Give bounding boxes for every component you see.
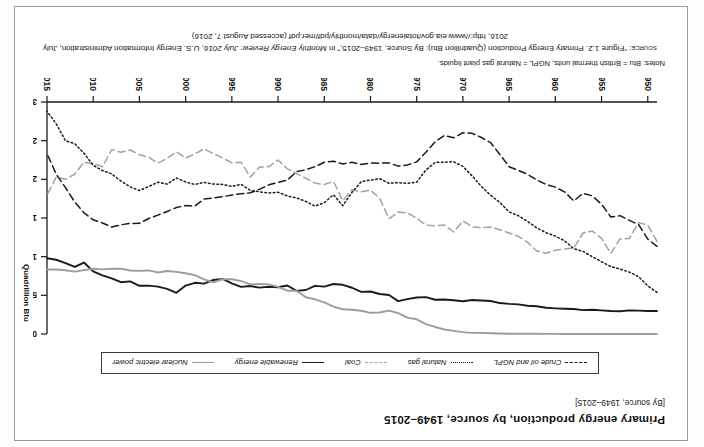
source-line1-a: “Figure 1.2. Primary Energy Production (… <box>327 44 627 53</box>
y-axis-title: Quadrillion Btu <box>22 264 31 322</box>
x-tick-label: 1975 <box>412 78 422 91</box>
line-chart: 0510152025301950195519601965197019751980… <box>33 78 665 340</box>
legend-label: Renewable energy <box>235 359 298 368</box>
x-tick-label-group: 2000 <box>181 78 191 91</box>
series-line-coal <box>47 149 657 253</box>
legend-swatch-icon <box>365 363 387 364</box>
legend-label: Coal <box>345 359 361 368</box>
x-tick-label-group: 1980 <box>365 78 375 91</box>
y-tick-label: 5 <box>33 290 37 300</box>
legend-item: Renewable energy <box>235 359 324 368</box>
legend-item: Nuclear electric power <box>113 359 214 368</box>
legend-label: Natural gas <box>408 359 447 368</box>
chart-plot-area: 0510152025301950195519601965197019751980… <box>33 78 665 340</box>
x-tick-label-group: 2010 <box>88 78 98 91</box>
x-tick-label: 2015 <box>42 78 52 91</box>
source-line1-b: , U.S. Energy <box>156 44 204 53</box>
x-tick-label-group: 1985 <box>319 78 329 91</box>
legend-swatch-icon <box>451 363 473 364</box>
x-tick-label-group: 1965 <box>504 78 514 91</box>
x-tick-label: 2005 <box>134 78 144 91</box>
y-tick-label: 20 <box>33 174 37 184</box>
x-tick-label-group: 1990 <box>273 78 283 91</box>
x-tick-label-group: 2005 <box>134 78 144 91</box>
y-tick-label: 30 <box>33 97 37 107</box>
figure-source: source: “Figure 1.2. Primary Energy Prod… <box>35 31 665 54</box>
x-tick-label: 1965 <box>504 78 514 91</box>
x-tick-label-group: 1955 <box>597 78 607 91</box>
x-tick-label: 2010 <box>88 78 98 91</box>
chart-legend: Crude oil and NGPLNatural gasCoalRenewab… <box>101 352 599 374</box>
x-tick-label-group: 1950 <box>643 78 653 91</box>
figure-card: Primary energy production, by source, 19… <box>14 6 688 441</box>
y-tick-label: 25 <box>33 136 37 146</box>
legend-item: Coal <box>345 359 387 368</box>
y-tick-label: 10 <box>33 252 37 262</box>
legend-swatch-icon <box>302 363 324 364</box>
page-subtitle: [By source, 1949–2015] <box>575 398 665 408</box>
figure-notes: Notes: Btu = British thermal units, NGPL… <box>438 59 665 68</box>
legend-label: Crude oil and NGPL <box>494 359 562 368</box>
x-tick-label: 2000 <box>181 78 191 91</box>
source-line1-italic: Monthly Energy Review: July 2016 <box>204 44 327 53</box>
x-tick-label-group: 1995 <box>227 78 237 91</box>
x-tick-label: 1960 <box>550 78 560 91</box>
page-title: Primary energy production, by source, 19… <box>384 414 665 426</box>
x-tick-label: 1990 <box>273 78 283 91</box>
x-tick-label-group: 1960 <box>550 78 560 91</box>
x-tick-label-group: 2015 <box>42 78 52 91</box>
series-line-renewable-energy <box>47 258 657 311</box>
x-tick-label: 1995 <box>227 78 237 91</box>
x-tick-label: 1950 <box>643 78 653 91</box>
x-tick-label: 1955 <box>597 78 607 91</box>
legend-label: Nuclear electric power <box>113 359 188 368</box>
source-lead: source: <box>629 44 657 53</box>
series-line-nuclear-electric-power <box>47 269 657 334</box>
y-tick-label: 0 <box>33 329 37 339</box>
x-tick-label-group: 1975 <box>412 78 422 91</box>
y-tick-label: 15 <box>33 213 37 223</box>
x-tick-label: 1985 <box>319 78 329 91</box>
x-tick-label: 1980 <box>365 78 375 91</box>
x-tick-label: 1970 <box>458 78 468 91</box>
scanned-page: Primary energy production, by source, 19… <box>0 0 704 447</box>
legend-item: Natural gas <box>408 359 473 368</box>
legend-item: Crude oil and NGPL <box>494 359 588 368</box>
legend-swatch-icon <box>192 363 214 364</box>
legend-swatch-icon <box>566 363 588 364</box>
x-tick-label-group: 1970 <box>458 78 468 91</box>
series-line-natural-gas <box>47 111 657 292</box>
